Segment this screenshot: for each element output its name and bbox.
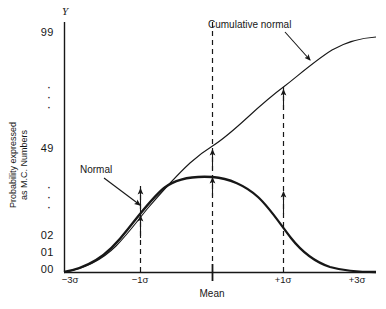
y-tick-dot: · bbox=[44, 102, 54, 112]
y-tick-label-00: 00 bbox=[28, 264, 54, 275]
cumulative-normal-curve bbox=[64, 37, 376, 272]
y-tick-ellipsis-upper: · · · bbox=[44, 82, 54, 112]
x-tick-label-plus-3-sigma: +3σ bbox=[337, 275, 377, 285]
y-tick-label-99: 99 bbox=[28, 27, 54, 38]
normal-leader bbox=[104, 178, 140, 205]
y-tick-ellipsis-lower: · · · bbox=[44, 182, 54, 212]
x-tick-label-plus-1-sigma: +1σ bbox=[263, 275, 303, 285]
normal-annotation: Normal bbox=[80, 165, 112, 175]
cumulative-normal-leader bbox=[285, 32, 310, 60]
y-axis-symbol: Y bbox=[62, 6, 68, 17]
y-axis-title: Probability expressed as M.C. Numbers bbox=[8, 100, 29, 230]
y-axis-title-line2: as M.C. Numbers bbox=[19, 130, 29, 200]
mean-axis-label: Mean bbox=[190, 289, 234, 299]
x-tick-label-minus-1-sigma: −1σ bbox=[120, 275, 160, 285]
x-tick-label-minus-3-sigma: −3σ bbox=[50, 275, 90, 285]
y-tick-label-49: 49 bbox=[28, 143, 54, 154]
cumulative-normal-annotation: Cumulative normal bbox=[208, 20, 291, 30]
y-tick-label-02: 02 bbox=[28, 230, 54, 241]
chart-figure: Y Probability expressed as M.C. Numbers … bbox=[0, 0, 386, 309]
chart-plot-area bbox=[0, 0, 386, 309]
normal-curve bbox=[64, 177, 376, 272]
y-tick-label-01: 01 bbox=[28, 247, 54, 258]
y-tick-dot: · bbox=[44, 202, 54, 212]
y-axis-title-line1: Probability expressed bbox=[8, 122, 18, 208]
